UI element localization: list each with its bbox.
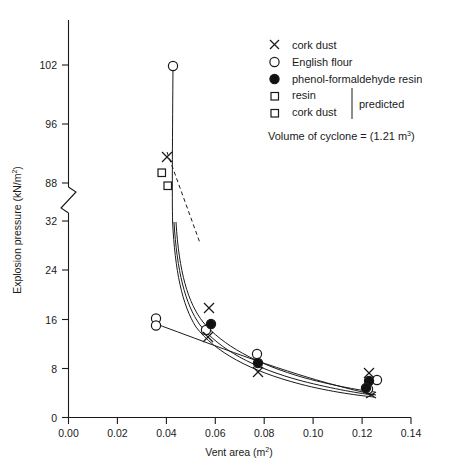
legend-item-label-cork-dust: cork dust: [292, 39, 337, 51]
x-tick-label-010: 0.10: [303, 427, 324, 439]
y-axis-ticks: [62, 65, 69, 418]
legend-x-marker-icon: [270, 40, 279, 49]
x-tick-label-006: 0.06: [205, 427, 226, 439]
marker-english-flour: [252, 349, 261, 358]
axis-break-symbol: [61, 187, 76, 213]
data-markers: [151, 61, 381, 398]
marker-cork-dust: [162, 152, 172, 162]
legend-filled-circle-marker-icon: [270, 74, 279, 83]
legend: cork dust English flour phenol-formaldeh…: [268, 39, 422, 142]
marker-predicted-cork-dust: [164, 182, 172, 190]
marker-predicted-resin: [158, 169, 166, 177]
x-tick-label-002: 0.02: [107, 427, 128, 439]
legend-group-label-predicted: predicted: [359, 98, 404, 110]
x-axis-tick-labels: 0.00 0.02 0.04 0.06 0.08 0.10 0.12 0.14: [58, 427, 421, 439]
marker-phenol-formaldehyde-resin: [253, 358, 262, 367]
legend-open-square-marker-icon: [271, 110, 279, 118]
x-tick-label-014: 0.14: [401, 427, 422, 439]
y-axis-title: Explosion pressure (kN/m2): [11, 166, 23, 294]
marker-english-flour: [168, 61, 177, 70]
marker-phenol-formaldehyde-resin: [361, 383, 370, 392]
y-axis-tick-labels: 102 96 88 32 24 16 8 0: [39, 59, 57, 424]
legend-item-label-resin: resin: [292, 89, 316, 101]
y-tick-label-102: 102: [39, 59, 57, 71]
x-tick-label-012: 0.12: [352, 427, 373, 439]
explosion-pressure-vs-vent-area-chart: 102 96 88 32 24 16 8 0 0.00 0.02 0.04 0.…: [0, 0, 459, 471]
x-tick-label-008: 0.08: [254, 427, 275, 439]
curve-low-flour-line: [156, 324, 376, 395]
chart-svg: 102 96 88 32 24 16 8 0 0.00 0.02 0.04 0.…: [0, 0, 459, 471]
x-tick-label-000: 0.00: [58, 427, 79, 439]
legend-note-volume-of-cyclone: Volume of cyclone = (1.21 m3): [268, 130, 415, 142]
x-axis-ticks: [69, 418, 412, 425]
legend-item-label-phenol-formaldehyde-resin: phenol-formaldehyde resin: [292, 73, 422, 85]
marker-cork-dust: [204, 303, 214, 313]
y-tick-label-0: 0: [51, 412, 57, 424]
y-tick-label-32: 32: [45, 215, 57, 227]
curve-phenol-formaldehyde-resin: [174, 222, 374, 395]
data-curves: [156, 66, 376, 397]
x-tick-label-004: 0.04: [156, 427, 177, 439]
y-tick-label-88: 88: [45, 177, 57, 189]
legend-item-label-english-flour: English flour: [292, 56, 353, 68]
y-tick-label-24: 24: [45, 264, 57, 276]
y-tick-label-8: 8: [51, 363, 57, 375]
y-tick-label-16: 16: [45, 314, 57, 326]
marker-english-flour: [151, 321, 160, 330]
x-axis-title: Vent area (m2): [205, 446, 273, 458]
legend-open-square-marker-icon: [271, 93, 279, 101]
legend-open-circle-marker-icon: [270, 57, 279, 66]
marker-phenol-formaldehyde-resin: [206, 319, 215, 328]
y-tick-label-96: 96: [45, 118, 57, 130]
legend-item-label-cork-dust-predicted: cork dust: [292, 106, 337, 118]
